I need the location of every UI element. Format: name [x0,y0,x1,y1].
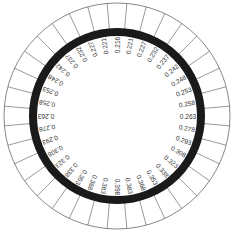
segment-divider [8,87,33,94]
segment-divider [52,187,67,208]
segment-divider [196,68,220,79]
segment-divider [15,68,39,79]
value-label: 0.258 [178,99,196,109]
segment-divider [107,203,109,229]
value-label: 0.293 [41,134,59,146]
segment-divider [154,195,165,219]
segment-divider [69,14,80,38]
segment-divider [88,7,95,32]
segment-divider [107,3,109,29]
value-label: 0.253 [41,86,59,98]
value-label: 0.383 [100,177,110,195]
value-label: 0.232 [74,45,88,63]
segment-divider [88,200,95,225]
value-label: 0.398 [114,179,121,196]
segment-divider [24,166,45,181]
ring-diagram-canvas: 0.2160.2210.2270.2320.2370.2420.2480.253… [0,0,235,232]
thick-black-ring [33,32,201,200]
value-label: 0.221 [100,37,110,55]
segment-divider [24,51,45,66]
segment-divider [125,3,127,29]
segment-divider [69,195,80,219]
value-label: 0.227 [135,40,147,58]
value-label: 0.383 [124,177,134,195]
value-label: 0.353 [145,169,159,187]
segment-divider [37,36,55,54]
segment-divider [154,14,165,38]
value-label: 0.248 [170,73,188,87]
ring-diagram: 0.2160.2210.2270.2320.2370.2420.2480.253… [0,0,235,232]
segment-divider [179,36,197,54]
segment-divider [167,23,182,44]
value-label: 0.308 [46,144,64,158]
segment-divider [167,187,182,208]
segment-divider [4,106,30,108]
segment-divider [4,124,30,126]
value-label: 0.368 [87,174,99,192]
value-label: 0.227 [87,40,99,58]
value-labels: 0.2160.2210.2270.2320.2370.2420.2480.253… [37,36,196,195]
value-label: 0.368 [135,174,147,192]
segment-divider [196,153,220,164]
value-label: 0.293 [175,134,193,146]
segment-divider [188,166,209,181]
segment-divider [125,203,127,229]
value-label: 0.278 [178,123,196,133]
segment-divider [179,178,197,196]
value-label: 0.263 [180,113,197,120]
value-label: 0.216 [114,36,121,53]
segment-divider [188,51,209,66]
segment-divider [8,139,33,146]
segment-divider [37,178,55,196]
segment-divider [201,139,226,146]
segment-divider [201,87,226,94]
segment-divider [52,23,67,44]
value-label: 0.221 [124,37,134,55]
value-label: 0.253 [175,86,193,98]
segment-divider [204,106,230,108]
segment-divider [140,7,147,32]
value-label: 0.278 [38,123,56,133]
segment-divider [140,200,147,225]
segment-divider [15,153,39,164]
value-label: 0.258 [38,99,56,109]
value-label: 0.263 [37,113,54,120]
segment-divider [204,124,230,126]
